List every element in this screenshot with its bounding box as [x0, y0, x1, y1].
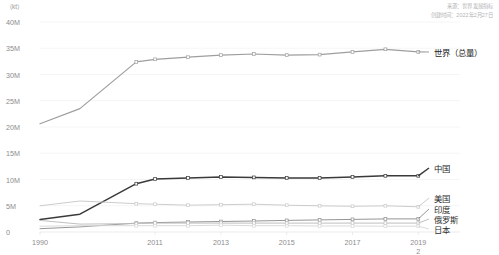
leader-line-china — [418, 168, 429, 176]
data-point-marker — [351, 51, 354, 54]
x-axis-tick-label-overflow: 2 — [410, 247, 426, 255]
data-point-marker — [318, 177, 321, 180]
data-point-marker — [220, 203, 223, 206]
y-axis-tick-label: 20M — [6, 123, 20, 132]
series-label-world[interactable]: 世界（总量） — [434, 46, 482, 58]
data-point-marker — [351, 218, 354, 221]
data-point-marker — [135, 182, 138, 185]
plot-area — [0, 0, 499, 255]
data-point-marker — [384, 222, 387, 225]
data-point-marker — [154, 224, 157, 227]
data-point-marker — [252, 53, 255, 56]
y-axis-tick-label: 40M — [6, 18, 20, 27]
data-point-marker — [252, 203, 255, 206]
data-point-marker — [154, 58, 157, 61]
data-point-marker — [384, 218, 387, 221]
data-point-marker — [135, 202, 138, 205]
data-point-marker — [252, 176, 255, 179]
data-point-marker — [135, 224, 138, 227]
x-axis-tick-label: 2011 — [147, 238, 162, 247]
y-axis-tick-label: 25M — [6, 96, 20, 105]
data-point-marker — [187, 177, 190, 180]
data-point-marker — [285, 224, 288, 227]
y-axis-tick-label: 0 — [6, 228, 10, 237]
x-axis-tick-label: 2013 — [213, 238, 229, 247]
x-axis-tick-label: 20192 — [410, 238, 426, 255]
line-chart: （kt） 来源：世界发展指标 创建时间：2022年2月27日 05M10M15M… — [0, 0, 499, 255]
data-point-marker — [384, 225, 387, 228]
data-point-marker — [318, 222, 321, 225]
y-axis-tick-label: 35M — [6, 44, 20, 53]
data-point-marker — [220, 176, 223, 179]
data-point-marker — [252, 224, 255, 227]
series-label-china[interactable]: 中国 — [434, 162, 450, 174]
data-point-marker — [384, 204, 387, 207]
series-label-japan[interactable]: 日本 — [434, 223, 450, 235]
data-point-marker — [351, 205, 354, 208]
x-axis-tick-label: 2015 — [279, 238, 295, 247]
data-point-marker — [318, 204, 321, 207]
series-line-5 — [40, 225, 418, 226]
data-point-marker — [187, 204, 190, 207]
data-point-marker — [384, 174, 387, 177]
y-axis-tick-label: 15M — [6, 149, 20, 158]
data-point-marker — [351, 176, 354, 179]
data-point-marker — [285, 204, 288, 207]
series-line-1 — [40, 176, 418, 220]
y-axis-tick-label: 30M — [6, 70, 20, 79]
data-point-marker — [220, 54, 223, 57]
y-axis-tick-label: 5M — [6, 201, 16, 210]
data-point-marker — [384, 48, 387, 51]
leader-line-india — [418, 209, 429, 219]
x-axis-tick-label: 2017 — [345, 238, 361, 247]
data-point-marker — [318, 219, 321, 222]
data-point-marker — [318, 225, 321, 228]
x-axis-tick-label: 1990 — [32, 238, 48, 247]
data-point-marker — [187, 224, 190, 227]
y-axis-tick-label: 10M — [6, 175, 20, 184]
data-point-marker — [220, 224, 223, 227]
series-line-0 — [40, 49, 418, 124]
data-point-marker — [351, 222, 354, 225]
data-point-marker — [135, 61, 138, 64]
data-point-marker — [285, 54, 288, 57]
data-point-marker — [351, 225, 354, 228]
data-point-marker — [154, 178, 157, 181]
data-point-marker — [285, 177, 288, 180]
data-point-marker — [154, 203, 157, 206]
data-point-marker — [187, 56, 190, 59]
data-point-marker — [318, 53, 321, 56]
